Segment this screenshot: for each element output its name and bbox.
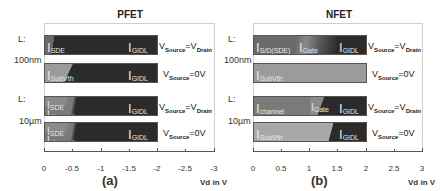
tick xyxy=(309,148,310,151)
tick-label: -2 xyxy=(147,164,167,173)
tick-label: 0 xyxy=(34,164,54,173)
label-i-gidl: IGIDL xyxy=(128,100,148,116)
label-i-subvth: ISubVth xyxy=(256,126,283,142)
tick xyxy=(101,148,102,151)
pfet-row-label-10um: 10µm xyxy=(19,116,42,126)
nfet-cond-equal-2: VSource=VDrain xyxy=(368,102,421,114)
tick xyxy=(72,149,73,151)
nfet-bar-10um-zero: ISubVth IGIDL xyxy=(253,122,367,142)
nfet-axis-title: Vd in V xyxy=(408,178,435,187)
tick-label: -2.5 xyxy=(175,164,195,173)
nfet-row-label-100nm: 100nm xyxy=(224,55,252,65)
pfet-row-label-100nm: 100nm xyxy=(14,55,42,65)
tick xyxy=(253,148,254,151)
tick xyxy=(185,149,186,151)
label-i-subvth: ISubVth xyxy=(256,67,283,83)
label-i-gidl: IGIDL xyxy=(128,39,148,55)
label-i-gidl: IGIDL xyxy=(128,67,148,83)
label-i-sde: ISDE xyxy=(47,39,65,55)
tick-label: -1 xyxy=(91,164,111,173)
tick xyxy=(214,148,215,151)
label-i-gidl: IGIDL xyxy=(128,126,148,142)
pfet-cond-equal-2: VSource=VDrain xyxy=(159,102,212,114)
label-i-channel: Ichannel xyxy=(47,131,74,142)
pfet-cond-zero-1: VSource=0V xyxy=(163,69,206,81)
label-i-gidl: IGIDL xyxy=(339,39,359,55)
label-i-gidl: IGIDL xyxy=(339,100,359,116)
tick-label: -3 xyxy=(204,164,224,173)
pfet-bar-10um-equal: ISDE Ichannel IGIDL xyxy=(44,96,158,116)
pfet-bar-10um-zero: ISDE Ichannel IGIDL xyxy=(44,122,158,142)
pfet-bar-100nm-equal: ISDE IGIDL xyxy=(44,35,158,55)
tick-label: -1.5 xyxy=(119,164,139,173)
nfet-row-label-l1: L: xyxy=(228,34,236,44)
nfet-bar-10um-equal: Ichannel IGate IGIDL xyxy=(253,96,367,116)
label-i-channel: Ichannel xyxy=(47,105,74,116)
label-i-channel: Ichannel xyxy=(256,100,284,116)
tick xyxy=(366,148,367,151)
label-i-gidl: IGIDL xyxy=(339,126,359,142)
nfet-x-axis xyxy=(253,151,423,152)
label-i-sd-sde: IS/D(SDE) xyxy=(256,39,290,55)
pfet-sublabel: (a) xyxy=(102,173,118,188)
tick-label: 0.5 xyxy=(271,164,291,173)
nfet-cond-zero-2: VSource=0V xyxy=(372,128,415,140)
tick xyxy=(281,149,282,151)
nfet-bar-100nm-equal: IS/D(SDE) IGate IGIDL xyxy=(253,35,367,55)
nfet-sublabel: (b) xyxy=(311,173,328,188)
tick xyxy=(337,149,338,151)
tick-label: 2.5 xyxy=(384,164,404,173)
label-i-gate: IGate xyxy=(299,39,318,55)
tick xyxy=(394,149,395,151)
nfet-cond-equal-1: VSource=VDrain xyxy=(368,41,421,53)
pfet-cond-equal-1: VSource=VDrain xyxy=(159,41,212,53)
pfet-bar-100nm-zero: ISubVth IGIDL xyxy=(44,63,158,83)
nfet-row-label-10um: 10µm xyxy=(228,116,251,126)
tick-label: 0 xyxy=(243,164,263,173)
tick xyxy=(157,148,158,151)
nfet-cond-zero-1: VSource=0V xyxy=(372,69,415,81)
label-i-gate: IGate xyxy=(311,98,329,114)
nfet-bar-100nm-zero: ISubVth xyxy=(253,63,367,83)
label-i-subvth: ISubVth xyxy=(47,67,74,83)
pfet-row-label-l2: L: xyxy=(18,94,26,104)
tick-label: 3 xyxy=(412,164,432,173)
tick-label: 1.5 xyxy=(327,164,347,173)
nfet-title: NFET xyxy=(309,9,369,20)
pfet-title: PFET xyxy=(100,9,160,20)
tick-label: 1 xyxy=(299,164,319,173)
tick xyxy=(44,148,45,151)
tick-label: 2 xyxy=(356,164,376,173)
pfet-x-axis xyxy=(44,151,215,152)
tick-label: -0.5 xyxy=(62,164,82,173)
pfet-row-label-l1: L: xyxy=(18,34,26,44)
tick xyxy=(129,149,130,151)
pfet-axis-title: Vd in V xyxy=(200,178,227,187)
nfet-row-label-l2: L: xyxy=(228,94,236,104)
pfet-cond-zero-2: VSource=0V xyxy=(163,128,206,140)
tick xyxy=(422,148,423,151)
